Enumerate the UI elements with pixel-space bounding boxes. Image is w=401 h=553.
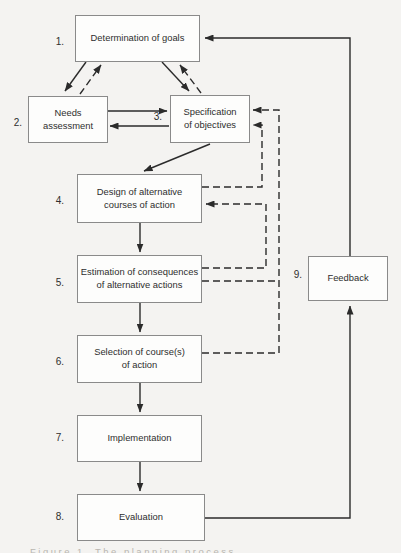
box-evaluation: Evaluation <box>77 494 205 541</box>
box-label: courses of action <box>104 199 175 212</box>
box-needs-assessment: Needs assessment <box>28 96 108 143</box>
box-label: Needs <box>54 107 81 120</box>
box-label: Selection of course(s) <box>94 346 185 359</box>
step-number-7: 7. <box>48 432 64 443</box>
step-number-9: 9. <box>286 269 302 280</box>
box-label: of action <box>122 359 157 372</box>
step-number-4: 4. <box>48 195 64 206</box>
step-number-8: 8. <box>48 511 64 522</box>
box-label: Evaluation <box>119 511 163 524</box>
line-estimation-to-design-feedback <box>202 204 266 268</box>
box-selection-of-course: Selection of course(s) of action <box>77 335 202 383</box>
box-label: assessment <box>43 120 93 133</box>
arrow-objectives-to-goals-feedback <box>180 65 201 93</box>
line-feedback-to-goals <box>205 38 350 256</box>
step-number-2: 2. <box>6 117 22 128</box>
box-feedback: Feedback <box>308 256 388 301</box>
box-label: Design of alternative <box>97 186 182 199</box>
step-number-1: 1. <box>48 36 64 47</box>
line-evaluation-to-feedback <box>205 306 350 518</box>
step-number-3: 3. <box>146 111 162 122</box>
box-estimation-of-consequences: Estimation of consequences of alternativ… <box>77 255 202 303</box>
step-number-6: 6. <box>48 356 64 367</box>
box-determination-of-goals: Determination of goals <box>75 15 200 62</box>
arrow-objectives-to-design <box>144 144 210 171</box>
partial-caption: Figure 1. The planning process <box>30 546 290 553</box>
flowchart-page: 1. 2. 3. 4. 5. 6. 7. 8. 9. Determination… <box>0 0 401 553</box>
box-label: Determination of goals <box>91 32 185 45</box>
box-label: of alternative actions <box>97 279 183 292</box>
arrow-goals-to-objectives <box>162 62 189 91</box>
box-label: Feedback <box>327 272 368 285</box>
box-label: of objectives <box>184 119 236 132</box>
box-label: Implementation <box>107 432 171 445</box>
step-number-5: 5. <box>48 277 64 288</box>
box-implementation: Implementation <box>77 415 202 462</box>
arrow-goals-to-needs <box>65 62 86 91</box>
arrow-needs-to-goals-feedback <box>80 65 101 94</box>
box-design-of-alternatives: Design of alternative courses of action <box>77 174 202 223</box>
box-specification-of-objectives: Specification of objectives <box>170 95 250 143</box>
box-label: Specification <box>183 106 236 119</box>
box-label: Estimation of consequences <box>81 266 198 279</box>
line-selection-to-objectives-feedback <box>202 110 279 353</box>
